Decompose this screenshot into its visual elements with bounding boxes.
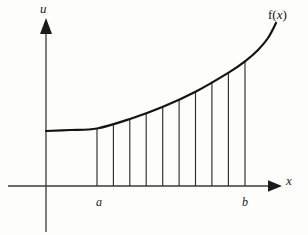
tick-label-a: a [96,196,102,208]
figure-canvas: u x a b f(x) [0,0,308,235]
function-curve-label: f(x) [268,8,287,21]
x-axis-group [8,180,282,192]
function-curve [46,23,276,131]
ordinate-lines-group [97,61,245,186]
tick-label-b: b [242,196,248,208]
figure-svg [0,0,308,235]
function-variable: x [277,7,283,22]
up-arrow-icon [40,18,52,34]
x-axis-label: x [286,174,292,187]
u-axis-group [40,18,52,232]
u-axis-label: u [40,2,47,15]
right-arrow-icon [268,180,282,192]
function-name: f [268,7,272,22]
